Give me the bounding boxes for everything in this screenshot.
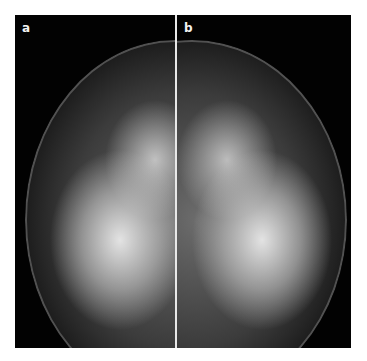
panel-label-b: b bbox=[184, 21, 193, 35]
panel-b: b bbox=[177, 15, 351, 348]
breast-tissue-image-b bbox=[177, 40, 347, 348]
mammogram-figure: a b bbox=[15, 15, 351, 348]
breast-tissue-image-a bbox=[25, 40, 175, 348]
panel-a: a bbox=[15, 15, 175, 348]
panel-label-a: a bbox=[22, 21, 30, 35]
